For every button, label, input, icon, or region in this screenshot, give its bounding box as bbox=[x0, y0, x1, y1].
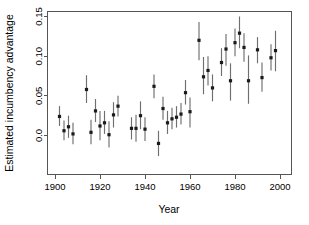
data-point-1968 bbox=[206, 69, 209, 72]
data-point-1960 bbox=[188, 110, 191, 113]
x-tick-label-1940: 1940 bbox=[134, 181, 155, 192]
data-point-1940 bbox=[143, 128, 146, 131]
incumbency-advantage-scatter-plot: 190019201940196019802000 0.00.050.100.15… bbox=[0, 0, 309, 225]
x-tick-label-2000: 2000 bbox=[269, 181, 290, 192]
y-tick-label-0.10: 0.10 bbox=[33, 47, 44, 66]
x-tick-label-1980: 1980 bbox=[224, 181, 245, 192]
data-point-1916 bbox=[89, 131, 92, 134]
data-point-1944 bbox=[152, 85, 155, 88]
data-point-1902 bbox=[58, 115, 61, 118]
y-tick-label-0.05: 0.05 bbox=[33, 87, 44, 106]
data-point-1936 bbox=[134, 127, 137, 130]
data-point-1904 bbox=[62, 129, 65, 132]
data-point-1976 bbox=[224, 47, 227, 50]
data-point-1928 bbox=[116, 105, 119, 108]
data-point-1956 bbox=[179, 112, 182, 115]
data-point-1966 bbox=[202, 75, 205, 78]
x-tick-label-1960: 1960 bbox=[179, 181, 200, 192]
y-tick-label-0.0: 0.0 bbox=[33, 129, 44, 142]
data-point-1924 bbox=[107, 133, 110, 136]
data-point-1974 bbox=[220, 61, 223, 64]
data-point-1954 bbox=[175, 116, 178, 119]
data-point-1984 bbox=[242, 46, 245, 49]
data-point-1992 bbox=[260, 76, 263, 79]
data-point-1946 bbox=[157, 142, 160, 145]
data-point-1906 bbox=[67, 125, 70, 128]
data-point-1964 bbox=[197, 39, 200, 42]
data-point-1948 bbox=[161, 107, 164, 110]
y-axis-title: Estimated incumbency advantage bbox=[3, 14, 15, 172]
data-point-1996 bbox=[269, 56, 272, 59]
data-point-1938 bbox=[139, 114, 142, 117]
data-point-1982 bbox=[238, 32, 241, 35]
data-point-1922 bbox=[103, 121, 106, 124]
data-point-1986 bbox=[247, 79, 250, 82]
data-point-1914 bbox=[85, 88, 88, 91]
data-point-1978 bbox=[229, 79, 232, 82]
data-point-1952 bbox=[170, 117, 173, 120]
figure-container: 190019201940196019802000 0.00.050.100.15… bbox=[0, 0, 309, 225]
data-point-1926 bbox=[112, 113, 115, 116]
data-point-1920 bbox=[98, 124, 101, 127]
data-point-1950 bbox=[166, 121, 169, 124]
data-point-1908 bbox=[71, 132, 74, 135]
data-point-1970 bbox=[211, 86, 214, 89]
data-point-1990 bbox=[256, 48, 259, 51]
data-point-1918 bbox=[94, 109, 97, 112]
x-tick-label-1920: 1920 bbox=[89, 181, 110, 192]
x-tick-label-1900: 1900 bbox=[44, 181, 65, 192]
data-point-1998 bbox=[274, 49, 277, 52]
data-point-1980 bbox=[233, 41, 236, 44]
data-point-1934 bbox=[130, 127, 133, 130]
data-point-1958 bbox=[184, 91, 187, 94]
y-tick-label-0.15: 0.15 bbox=[33, 7, 44, 26]
x-axis-title: Year bbox=[158, 203, 180, 215]
